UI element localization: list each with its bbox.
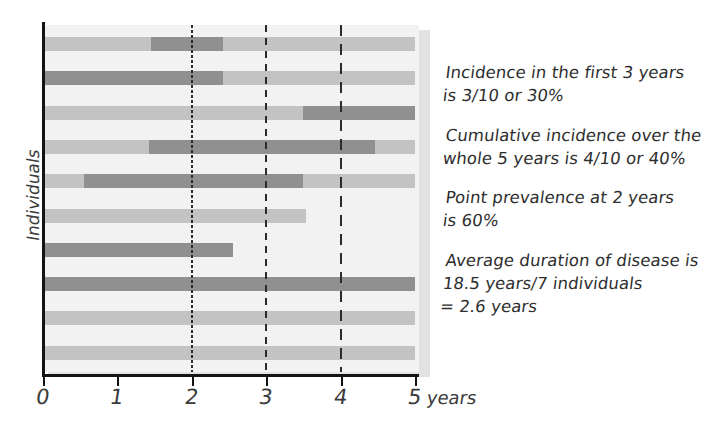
annotation-line: Point prevalence at 2 years — [444, 187, 712, 210]
x-axis-unit-label: years — [420, 387, 479, 408]
annotation-line: Average duration of disease is — [444, 250, 712, 273]
individual-timeline-row — [43, 106, 419, 120]
reference-line-year-4 — [340, 25, 342, 372]
healthy-period-segment — [43, 174, 84, 188]
healthy-period-segment — [43, 140, 149, 154]
healthy-period-segment — [43, 37, 151, 51]
annotation-line: = 2.6 years — [439, 295, 707, 318]
x-tick-label-2: 2 — [183, 385, 200, 409]
plot-area — [43, 25, 419, 372]
x-tick-label-4: 4 — [332, 385, 349, 409]
diseased-period-segment — [43, 277, 415, 291]
individual-timeline-row — [43, 37, 419, 51]
healthy-period-segment — [375, 140, 415, 154]
annotation-line: is 3/10 or 30% — [441, 85, 709, 108]
annotation-line: is 60% — [441, 210, 709, 233]
epidemiology-timeline-chart: 012345 years Individuals Incidence in th… — [0, 0, 717, 422]
x-tick-label-0: 0 — [34, 385, 51, 409]
reference-line-year-3 — [265, 25, 267, 372]
healthy-period-segment — [223, 37, 415, 51]
x-axis-line — [42, 374, 419, 377]
x-tick-label-1: 1 — [108, 385, 125, 409]
diseased-period-segment — [43, 243, 233, 257]
individual-timeline-row — [43, 71, 419, 85]
healthy-period-segment — [43, 311, 415, 325]
annotation-line: 18.5 years/7 individuals — [441, 272, 709, 295]
annotation-line: Cumulative incidence over the — [444, 125, 712, 148]
annotation-line: Incidence in the first 3 years — [444, 62, 712, 85]
individual-timeline-row — [43, 277, 419, 291]
annotation-line: whole 5 years is 4/10 or 40% — [441, 147, 709, 170]
diseased-period-segment — [43, 71, 223, 85]
diseased-period-segment — [151, 37, 223, 51]
annotation-cumulative-incidence: Cumulative incidence over thewhole 5 yea… — [441, 125, 712, 171]
annotation-average-duration: Average duration of disease is18.5 years… — [439, 250, 712, 318]
healthy-period-segment — [223, 71, 415, 85]
individual-timeline-row — [43, 140, 419, 154]
reference-line-year-2 — [191, 25, 193, 372]
individual-timeline-row — [43, 346, 419, 360]
individual-timeline-row — [43, 174, 419, 188]
y-axis-label: Individuals — [23, 113, 43, 276]
healthy-period-segment — [43, 346, 415, 360]
individual-timeline-row — [43, 311, 419, 325]
diseased-period-segment — [303, 106, 415, 120]
annotation-incidence: Incidence in the first 3 yearsis 3/10 or… — [441, 62, 712, 108]
x-tick-label-5: 5 years — [406, 385, 478, 409]
individual-timeline-row — [43, 209, 419, 223]
healthy-period-segment — [303, 174, 415, 188]
annotations-panel: Incidence in the first 3 yearsis 3/10 or… — [447, 62, 712, 335]
individual-timeline-row — [43, 243, 419, 257]
annotation-point-prevalence: Point prevalence at 2 yearsis 60% — [441, 187, 712, 233]
x-tick-label-3: 3 — [257, 385, 274, 409]
diseased-period-segment — [84, 174, 303, 188]
